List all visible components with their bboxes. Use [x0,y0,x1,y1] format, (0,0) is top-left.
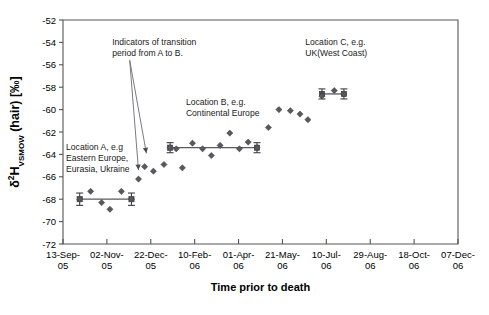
y-tick-label: -70 [42,216,56,227]
y-tick-label: -72 [42,239,56,250]
annotation-line: Location A, e.g [66,142,123,152]
annotation-line: UK(West Coast) [305,48,367,58]
x-tick-label: 10-Jul- [312,249,341,260]
x-tick-label: 02-Nov- [90,249,124,260]
x-tick-label: 13-Sep- [46,249,80,260]
x-tick-label: 05 [58,260,69,271]
ylabel-element: H [8,166,22,175]
y-tick-label: -52 [42,15,56,26]
y-tick-label: -54 [42,37,56,48]
y-tick-label: -64 [42,149,56,160]
x-tick-label: 29-Aug- [353,249,387,260]
chart-figure: -52-54-56-58-60-62-64-66-68-70-72 13-Sep… [0,0,489,315]
x-tick-label: 05 [145,260,156,271]
x-axis-title-text: Time prior to death [211,281,311,293]
x-tick-label: 06 [233,260,244,271]
annotation-line: Eastern Europe, [66,153,128,163]
y-tick-label: -68 [42,194,56,205]
x-tick-label: 06 [189,260,200,271]
x-tick-label: 21-May- [265,249,300,260]
y-tick-label: -60 [42,104,56,115]
ylabel-rest: (hair) [‰] [8,76,22,135]
y-tick-label: -66 [42,171,56,182]
x-tick-label: 22-Dec- [134,249,168,260]
x-axis-title: Time prior to death [211,281,311,293]
annotation-line: period from A to B. [112,48,183,58]
annotation-line: Eurasia, Ukraine [66,164,130,174]
x-tick-label: 05 [102,260,113,271]
x-tick-label: 07-Dec- [441,249,475,260]
x-tick-label: 06 [409,260,420,271]
annotation-line: Indicators of transition [112,37,196,47]
x-tick-label: 06 [365,260,376,271]
x-tick-label: 18-Oct- [398,249,430,260]
ylabel-subscript: VSMOW [17,135,26,167]
x-tick-label: 06 [321,260,332,271]
hair-isotope-scatter-chart: -52-54-56-58-60-62-64-66-68-70-72 13-Sep… [0,0,489,315]
annotation-line: Location B, e.g. [186,97,246,107]
y-tick-label: -58 [42,82,56,93]
x-tick-label: 01-Apr- [223,249,255,260]
y-tick-label: -62 [42,127,56,138]
x-tick-label: 06 [277,260,288,271]
x-tick-label: 10-Feb- [178,249,211,260]
annotation-line: Location C, e.g. [305,37,365,47]
y-tick-label: -56 [42,59,56,70]
annotation-line: Continental Europe [186,108,260,118]
x-tick-label: 06 [453,260,464,271]
